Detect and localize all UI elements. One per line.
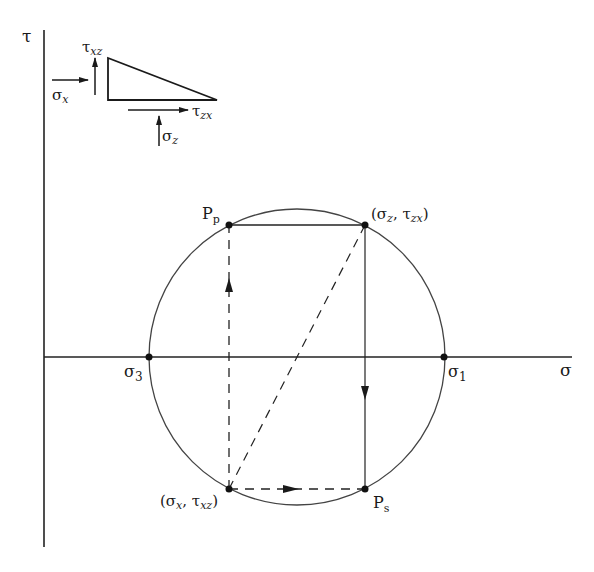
- point-sigma3: [146, 354, 153, 361]
- point-pp: [226, 222, 233, 229]
- point-z-face: [362, 222, 369, 229]
- mohr-circle-diagram: τ σ σ3 σ1 Pp Ps (σz, τzx) (σx, τxz): [0, 0, 594, 572]
- ps-label: Ps: [373, 493, 390, 515]
- up-arrow-icon: [225, 278, 233, 292]
- sigma3-label: σ3: [124, 362, 143, 384]
- point-sigma1: [441, 354, 448, 361]
- triangle-element: [108, 58, 217, 100]
- tau-zx-label: τzx: [192, 102, 213, 122]
- z-face-label: (σz, τzx): [371, 205, 429, 225]
- sigma-x-label: σx: [52, 86, 69, 106]
- sigma-axis-label: σ: [560, 360, 572, 380]
- right-arrow-icon: [283, 485, 299, 493]
- sigma1-label: σ1: [448, 362, 467, 384]
- point-ps: [362, 486, 369, 493]
- sigma-z-label: σz: [162, 127, 178, 147]
- stress-element-inset: σx τxz τzx σz: [52, 38, 217, 147]
- down-arrow-icon: [361, 386, 369, 400]
- tau-axis-label: τ: [22, 26, 31, 46]
- tau-xz-label: τxz: [82, 38, 103, 58]
- pp-label: Pp: [202, 204, 220, 226]
- point-x-face: [226, 486, 233, 493]
- x-face-label: (σx, τxz): [160, 492, 218, 512]
